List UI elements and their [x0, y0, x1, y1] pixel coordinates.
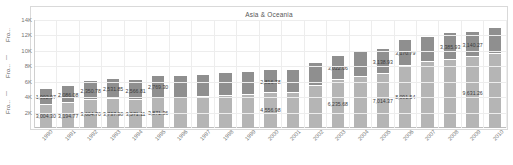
stacked-bar[interactable] [354, 52, 366, 128]
x-axis-tick-cell: 2002 [304, 131, 327, 161]
bar-value-label-upper: 3,138.93 [373, 60, 393, 65]
x-axis-tick-cell: 1996 [169, 131, 192, 161]
x-axis-tick-label[interactable]: 1998 [221, 129, 234, 142]
x-axis-tick-label[interactable]: 2007 [424, 129, 437, 142]
stacked-bar[interactable] [309, 63, 321, 128]
bar-value-label-lower: 3,194.77 [58, 114, 78, 119]
y-axis-tick-label: 12K [12, 32, 32, 38]
x-axis-tick-label[interactable]: 2000 [266, 129, 279, 142]
x-axis-tick-labels: 1990199119921993199419951996199719981999… [34, 131, 507, 161]
x-axis: 1990199119921993199419951996199719981999… [34, 131, 507, 161]
x-axis-tick-label[interactable]: 2006 [401, 129, 414, 142]
x-axis-tick-cell: 2005 [372, 131, 395, 161]
bar-segment-lower[interactable] [354, 76, 366, 128]
x-axis-tick-cell: 2004 [349, 131, 372, 161]
y-axis-tick-label: 4K [12, 94, 32, 100]
bar-value-label-lower: 6,235.68 [328, 102, 348, 107]
x-axis-tick-label[interactable]: 1996 [176, 129, 189, 142]
bar-value-label-upper: 3,385.93 [440, 45, 460, 50]
bar-segment-lower[interactable] [242, 94, 254, 128]
bar-value-label-upper: 3,170.79 [395, 51, 415, 56]
y-axis-title-1: Fro... [5, 18, 11, 52]
stacked-bar[interactable] [174, 76, 186, 128]
stacked-bar[interactable] [242, 72, 254, 128]
gridline [35, 51, 507, 52]
x-axis-tick-label[interactable]: 2004 [356, 129, 369, 142]
x-axis-tick-label[interactable]: 2010 [491, 129, 504, 142]
chart-screenshot: Fro... | Fro... | Fro... Asia & Oceania … [0, 0, 513, 165]
gridline [35, 82, 507, 83]
y-axis-tick-label: 10K [12, 48, 32, 54]
x-axis-tick-label[interactable]: 1994 [131, 129, 144, 142]
bar-segment-upper[interactable] [174, 76, 186, 97]
bar-segment-lower[interactable] [309, 85, 321, 128]
y-axis-tick-label: 14K [12, 17, 32, 23]
bar-segment-lower[interactable] [421, 61, 433, 128]
gridline [35, 97, 507, 98]
bar-segment-upper[interactable] [354, 52, 366, 76]
bar-value-label-upper: 2,769.30 [148, 85, 168, 90]
x-axis-tick-cell: 2007 [417, 131, 440, 161]
gridline [35, 66, 507, 67]
y-axis-tick-label: 6K [12, 79, 32, 85]
bar-segment-upper[interactable] [219, 73, 231, 95]
x-axis-tick-label[interactable]: 2005 [379, 129, 392, 142]
bar-segment-upper[interactable] [489, 28, 501, 52]
stacked-bar[interactable] [287, 70, 299, 128]
x-axis-tick-cell: 1994 [124, 131, 147, 161]
plot-area: 1,902.973,004.302,086.083,194.772,350.78… [34, 20, 507, 128]
x-axis-tick-label[interactable]: 2009 [469, 129, 482, 142]
x-axis-tick-label[interactable]: 1999 [244, 129, 257, 142]
x-axis-tick-cell: 1990 [34, 131, 57, 161]
x-axis-tick-label[interactable]: 1995 [154, 129, 167, 142]
x-axis-tick-label[interactable]: 1997 [199, 129, 212, 142]
x-axis-tick-cell: 1999 [237, 131, 260, 161]
bar-value-label-lower: 9,631.26 [463, 91, 483, 96]
x-axis-tick-cell: 2010 [485, 131, 508, 161]
bar-value-label-upper: 2,350.78 [81, 89, 101, 94]
y-axis-title-2: Fro... [5, 54, 11, 88]
y-axis-tick-labels: 14K12K10K8K6K4K2K [12, 20, 32, 128]
x-axis-tick-cell: 2003 [327, 131, 350, 161]
x-axis-tick-cell: 1993 [102, 131, 125, 161]
bar-segment-lower[interactable] [489, 53, 501, 128]
x-axis-tick-label[interactable]: 1992 [86, 129, 99, 142]
bar-value-label-upper: 3,140.27 [463, 43, 483, 48]
y-axis-tick-label: 2K [12, 110, 32, 116]
x-axis-tick-cell: 2000 [259, 131, 282, 161]
x-axis-tick-cell: 2001 [282, 131, 305, 161]
x-axis-tick-label[interactable]: 2003 [334, 129, 347, 142]
y-axis-title-3: Fro... [5, 90, 11, 124]
x-axis-tick-cell: 2009 [462, 131, 485, 161]
x-axis-tick-label[interactable]: 1993 [108, 129, 121, 142]
gridline [35, 35, 507, 36]
x-axis-tick-label[interactable]: 2001 [289, 129, 302, 142]
x-axis-tick-label[interactable]: 1990 [41, 129, 54, 142]
gridline [35, 113, 507, 114]
chart-title: Asia & Oceania [31, 11, 507, 18]
bar-segment-lower[interactable] [444, 59, 456, 128]
x-axis-tick-label[interactable]: 1991 [63, 129, 76, 142]
bar-segment-upper[interactable] [242, 72, 254, 94]
bar-segment-upper[interactable] [421, 37, 433, 62]
x-axis-tick-cell: 1995 [147, 131, 170, 161]
gridline [35, 20, 507, 21]
bar-value-label-lower: 7,014.37 [373, 99, 393, 104]
bar-value-label-lower: 3,004.30 [36, 114, 56, 119]
x-axis-tick-cell: 2006 [395, 131, 418, 161]
x-axis-tick-cell: 2008 [440, 131, 463, 161]
x-axis-tick-label[interactable]: 2002 [311, 129, 324, 142]
x-axis-tick-cell: 1998 [214, 131, 237, 161]
bar-value-label-upper: 2,566.81 [126, 89, 146, 94]
bar-value-label-upper: 2,531.85 [103, 87, 123, 92]
bar-segment-upper[interactable] [197, 75, 209, 97]
y-axis-tick-label: 8K [12, 63, 32, 69]
x-axis-tick-cell: 1991 [57, 131, 80, 161]
x-axis-tick-label[interactable]: 2008 [446, 129, 459, 142]
x-axis-tick-cell: 1997 [192, 131, 215, 161]
x-axis-tick-cell: 1992 [79, 131, 102, 161]
